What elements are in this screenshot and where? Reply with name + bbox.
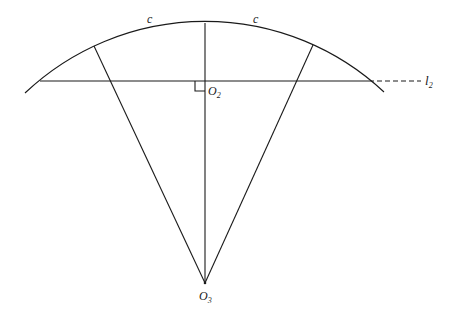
arc-label-right: c xyxy=(253,12,259,26)
center-point-o3 xyxy=(204,282,207,285)
foot-label-o2: O2 xyxy=(208,84,221,100)
right-angle-marker xyxy=(195,81,205,91)
left-radius xyxy=(94,46,205,283)
geometry-diagram: c c l2 O2 O3 xyxy=(0,0,452,313)
arc-label-left: c xyxy=(147,12,153,26)
line-label-l2: l2 xyxy=(425,73,433,90)
center-label-o3: O3 xyxy=(199,289,212,305)
